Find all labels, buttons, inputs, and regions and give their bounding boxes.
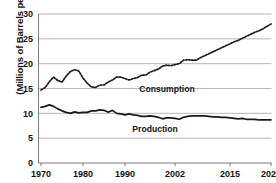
x-tick-label: 1980 [73, 169, 93, 179]
x-axis-ticks: 197019801990200220152025 [31, 163, 276, 179]
y-tick-label: 5 [28, 133, 33, 143]
y-tick-label: 10 [23, 109, 33, 119]
data-series [41, 24, 271, 120]
series-line-consumption [41, 24, 271, 90]
y-tick-label: 0 [28, 158, 33, 168]
y-tick-label: 20 [23, 59, 33, 69]
y-tick-label: 30 [23, 9, 33, 19]
x-tick-label: 2015 [220, 169, 240, 179]
y-tick-label: 25 [23, 34, 33, 44]
plot-area: 051015202530 197019801990200220152025 Co… [0, 0, 276, 183]
gridlines [39, 14, 272, 138]
x-tick-label: 2025 [261, 169, 276, 179]
series-label-consumption: Consumption [139, 84, 194, 94]
x-tick-label: 1970 [31, 169, 51, 179]
series-annotations: ConsumptionProduction [132, 84, 194, 134]
y-axis-ticks: 051015202530 [23, 9, 33, 168]
x-tick-label: 1990 [115, 169, 135, 179]
series-label-production: Production [132, 124, 177, 134]
series-line-production [41, 105, 271, 120]
chart-container: (Millions of Barrels per Day) 0510152025… [0, 0, 276, 183]
x-tick-label: 2002 [165, 169, 185, 179]
y-tick-label: 15 [23, 84, 33, 94]
